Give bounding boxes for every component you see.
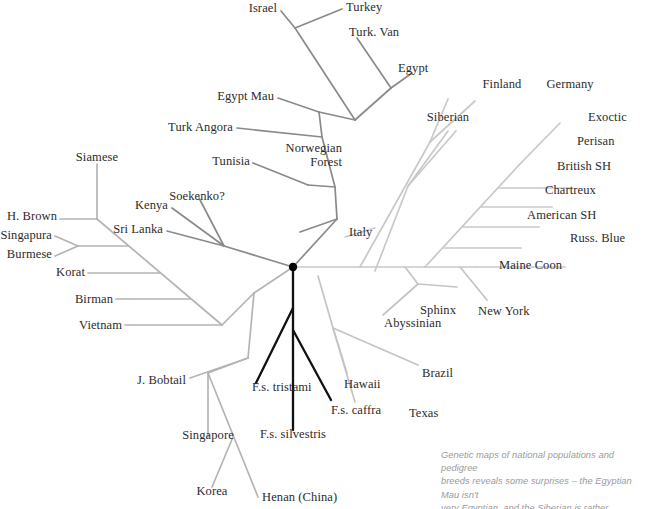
leaf-label-soekenko: Soekenko? <box>169 190 225 203</box>
edge-israel <box>281 11 295 28</box>
root-node-dot <box>289 263 297 271</box>
leaf-label-italy: Italy <box>349 226 372 239</box>
leaf-label-henan-china: Henan (China) <box>262 491 337 504</box>
leaf-label-sri-lanka: Sri Lanka <box>113 223 163 236</box>
leaf-label-korea: Korea <box>196 485 227 498</box>
leaf-label-f-s-tristami: F.s. tristami <box>252 381 312 394</box>
leaf-label-birman: Birman <box>75 293 113 306</box>
phylogenetic-tree-figure: IsraelTurkeyTurk. VanEgyptEgypt MauTurk … <box>0 0 650 509</box>
leaf-label-kenya: Kenya <box>135 199 168 212</box>
edge-jbob-stem <box>248 293 254 358</box>
edge-norwegian-link <box>375 186 408 271</box>
edge-hawaii <box>333 328 347 373</box>
edge-asia-upper-stem <box>222 293 254 325</box>
edge-exoctic <box>519 123 560 165</box>
figure-caption: Genetic maps of national populations and… <box>441 449 650 509</box>
edge-sri-lanka <box>167 231 224 246</box>
leaf-label-turkey: Turkey <box>346 1 382 14</box>
edge-tunisia-link <box>308 185 335 187</box>
leaf-label-egypt: Egypt <box>398 62 428 75</box>
edge-turk-angora <box>237 128 322 137</box>
edge-new-york <box>460 267 487 300</box>
edge-soekenko <box>199 198 224 246</box>
edge-korea <box>212 437 233 487</box>
edge-kenya-stem <box>224 246 293 267</box>
edge-north-stem <box>360 142 430 267</box>
edge-asia-stem <box>254 267 293 293</box>
leaf-label-vietnam: Vietnam <box>79 319 122 332</box>
leaf-label-f-s-caffra: F.s. caffra <box>331 404 381 417</box>
edge-burmese <box>55 246 78 256</box>
edge-brazil-stem <box>318 276 333 328</box>
edge-abyssinian <box>383 284 418 315</box>
leaf-label-singapura: Singapura <box>0 229 52 242</box>
edge-sing-branch <box>208 358 248 373</box>
leaf-label-finland: Finland <box>483 78 522 91</box>
leaf-label-perisan: Perisan <box>577 135 615 148</box>
leaf-label-singapore: Singapore <box>182 429 234 442</box>
leaf-label-siberian: Siberian <box>427 111 469 124</box>
tree-root-node <box>289 263 297 271</box>
leaf-label-exoctic: Exoctic <box>588 111 627 124</box>
edge-med-upper <box>335 187 337 219</box>
leaf-label-korat: Korat <box>56 266 85 279</box>
edge-sphinx <box>418 284 457 287</box>
leaf-label-hawaii: Hawaii <box>344 378 381 391</box>
leaf-label-f-s-silvestris: F.s. silvestris <box>260 428 326 441</box>
edge-kenya <box>172 208 224 246</box>
edge-euro-ladder <box>425 165 519 267</box>
leaf-label-egypt-mau: Egypt Mau <box>217 90 274 103</box>
leaf-label-new-york: New York <box>478 305 530 318</box>
edge-tristami <box>256 308 293 383</box>
leaf-label-russ-blue: Russ. Blue <box>570 232 625 245</box>
edge-sphinx-stem <box>405 267 418 284</box>
leaf-label-texas: Texas <box>409 407 438 420</box>
edge-turk-van <box>357 38 391 88</box>
edge-brazil <box>333 328 418 365</box>
edge-tunisia <box>253 163 308 185</box>
leaf-label-israel: Israel <box>249 2 277 15</box>
leaf-label-j-bobtail: J. Bobtail <box>137 374 186 387</box>
leaf-label-chartreux: Chartreux <box>545 184 596 197</box>
leaf-label-siamese: Siamese <box>76 151 118 164</box>
leaf-label-norwegian: Norwegian <box>286 142 342 155</box>
edge-egypt <box>391 73 412 88</box>
leaf-label-germany: Germany <box>546 78 593 91</box>
edge-siberian <box>408 131 448 186</box>
leaf-label-brazil: Brazil <box>422 367 453 380</box>
leaf-label-abyssinian: Abyssinian <box>384 317 441 330</box>
leaf-label-maine-coon: Maine Coon <box>499 259 562 272</box>
edge-singapura <box>55 236 78 246</box>
edge-vanegypt-stem <box>355 88 391 120</box>
leaf-label-burmese: Burmese <box>7 248 52 261</box>
leaf-label-h-brown: H. Brown <box>7 210 57 223</box>
edge-egypt-mau <box>278 98 319 112</box>
leaf-label-british-sh: British SH <box>557 160 611 173</box>
edge-med-upper3 <box>319 112 322 137</box>
leaf-label-tunisia: Tunisia <box>212 155 250 168</box>
edge-turkey <box>295 9 342 28</box>
leaf-label-american-sh: American SH <box>527 209 596 222</box>
leaf-label-turk-angora: Turk Angora <box>168 121 233 134</box>
leaf-label-forest: Forest <box>310 156 342 169</box>
leaf-label-turk-van: Turk. Van <box>349 26 399 39</box>
